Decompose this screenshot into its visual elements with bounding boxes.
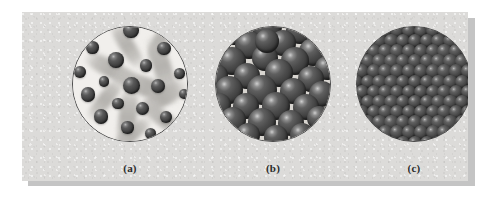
inset-circle-liquid xyxy=(215,26,331,142)
particle-sphere xyxy=(449,125,463,139)
particle-sphere xyxy=(74,66,86,78)
caption-panel-b: (b) xyxy=(215,162,331,174)
figure-root: (a) (b) (c) xyxy=(0,0,492,201)
particle-sphere xyxy=(81,129,91,139)
inset-circle-solid xyxy=(356,26,468,142)
particle-sphere xyxy=(140,59,152,71)
particle-sphere xyxy=(236,123,260,142)
particle-sphere xyxy=(315,119,331,141)
particle-sphere xyxy=(157,42,171,56)
particle-sphere xyxy=(151,79,165,93)
gas-field xyxy=(72,26,188,142)
caption-panel-a: (a) xyxy=(72,162,188,174)
figure-panel: (a) (b) (c) xyxy=(22,12,468,181)
particle-sphere xyxy=(94,109,109,124)
panel-shadow-right xyxy=(468,18,475,186)
particle-sphere xyxy=(145,128,157,140)
particle-sphere xyxy=(112,98,123,109)
particle-sphere xyxy=(215,121,233,142)
particle-sphere xyxy=(174,68,185,79)
particle-sphere xyxy=(99,76,109,86)
particle-sphere xyxy=(121,121,133,133)
particle-sphere xyxy=(81,87,95,101)
solid-field xyxy=(356,26,468,142)
particle-sphere xyxy=(179,89,189,99)
inset-circle-gas xyxy=(72,26,188,142)
caption-panel-c: (c) xyxy=(356,162,468,174)
liquid-field xyxy=(215,26,331,142)
